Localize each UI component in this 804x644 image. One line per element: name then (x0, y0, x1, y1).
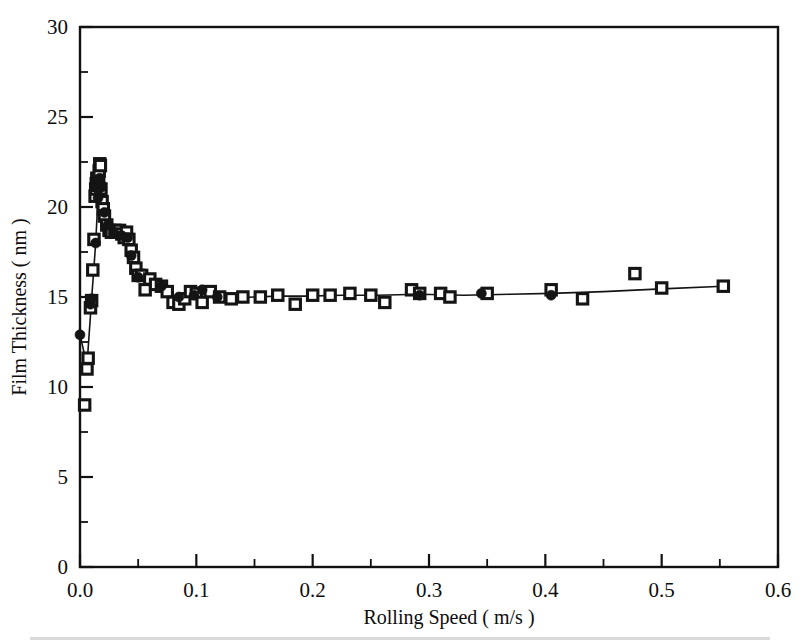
data-point-square (197, 297, 207, 307)
data-point-circle (123, 233, 133, 243)
data-point-circle (103, 220, 113, 230)
data-point-square (79, 400, 89, 410)
x-tick-label: 0.6 (765, 578, 791, 602)
x-tick-label: 0.3 (416, 578, 442, 602)
x-tick-label: 0.4 (532, 578, 559, 602)
data-point-square (226, 294, 236, 304)
y-tick-label: 5 (58, 465, 69, 489)
data-point-square (95, 160, 105, 170)
x-axis-title: Rolling Speed ( m/s ) (363, 606, 534, 629)
data-point-square (82, 364, 92, 374)
data-point-circle (133, 272, 143, 282)
data-point-circle (174, 292, 184, 302)
data-point-square (83, 353, 93, 363)
y-axis-title: Film Thickness ( nm ) (8, 218, 31, 395)
data-point-circle (476, 288, 486, 298)
y-tick-label: 15 (47, 285, 68, 309)
data-point-circle (156, 281, 166, 291)
data-point-circle (546, 290, 556, 300)
data-point-square (630, 268, 640, 278)
figure-page: 0.00.10.20.30.40.50.6051015202530Rolling… (0, 0, 804, 644)
data-point-circle (87, 294, 97, 304)
data-point-circle (75, 330, 85, 340)
data-point-square (345, 288, 355, 298)
data-point-square (380, 297, 390, 307)
data-point-circle (99, 207, 109, 217)
x-tick-label: 0.5 (649, 578, 675, 602)
fitted-curve-line (80, 175, 723, 366)
data-point-square (325, 290, 335, 300)
y-tick-label: 0 (58, 555, 69, 579)
y-tick-label: 30 (47, 15, 68, 39)
scan-artifact-smudge (30, 637, 770, 640)
data-point-square (307, 290, 317, 300)
data-point-circle (212, 292, 222, 302)
x-tick-label: 0.2 (300, 578, 326, 602)
data-point-square (255, 292, 265, 302)
data-point-circle (126, 251, 136, 261)
data-point-square (140, 285, 150, 295)
y-tick-label: 20 (47, 195, 68, 219)
data-point-square (290, 299, 300, 309)
data-point-square (273, 290, 283, 300)
data-point-square (366, 290, 376, 300)
x-tick-label: 0.0 (67, 578, 93, 602)
data-point-square (718, 281, 728, 291)
x-tick-label: 0.1 (183, 578, 209, 602)
data-point-square (445, 292, 455, 302)
y-tick-label: 10 (47, 375, 68, 399)
film-thickness-scatter-chart: 0.00.10.20.30.40.50.6051015202530Rolling… (0, 0, 804, 644)
data-point-circle (415, 290, 425, 300)
data-point-square (656, 283, 666, 293)
data-point-circle (197, 285, 207, 295)
data-point-circle (97, 182, 107, 192)
data-point-square (88, 265, 98, 275)
data-point-circle (91, 238, 101, 248)
data-point-circle (93, 193, 103, 203)
data-point-square (577, 294, 587, 304)
y-tick-label: 25 (47, 105, 68, 129)
data-point-square (238, 292, 248, 302)
